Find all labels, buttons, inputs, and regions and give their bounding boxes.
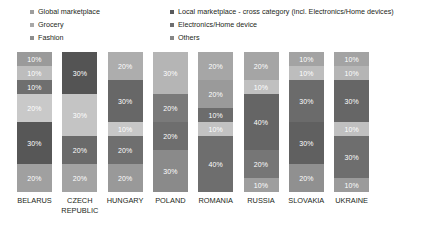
segment-value-label: 10% — [254, 182, 268, 189]
bar-segment[interactable]: 10% — [244, 178, 279, 192]
segment-value-label: 10% — [27, 56, 41, 63]
segment-value-label: 10% — [118, 126, 132, 133]
bar-segment[interactable]: 10% — [17, 52, 52, 66]
segment-value-label: 30% — [163, 70, 177, 77]
segment-value-label: 30% — [344, 154, 358, 161]
segment-value-label: 20% — [27, 105, 41, 112]
stacked-bar: 10%10%30%10%30%10% — [334, 52, 369, 192]
category-label-hungary: HUNGARY — [102, 196, 149, 206]
segment-value-label: 30% — [163, 168, 177, 175]
bar-belarus[interactable]: 10%10%10%20%30%20% — [17, 52, 52, 192]
stacked-bar: 10%10%10%20%30%20% — [17, 52, 52, 192]
segment-value-label: 30% — [118, 98, 132, 105]
bar-segment[interactable]: 30% — [108, 80, 143, 122]
segment-value-label: 20% — [209, 63, 223, 70]
bar-segment[interactable]: 10% — [289, 66, 324, 80]
bar-segment[interactable]: 20% — [17, 164, 52, 192]
segment-value-label: 30% — [299, 98, 313, 105]
bar-segment[interactable]: 30% — [62, 94, 97, 136]
category-label-czech-republic: CZECH REPUBLIC — [56, 196, 103, 215]
category-label-poland: POLAND — [147, 196, 194, 206]
legend-label: Local marketplace - cross category (incl… — [178, 6, 394, 17]
segment-value-label: 10% — [254, 84, 268, 91]
bar-segment[interactable]: 20% — [17, 94, 52, 122]
bar-segment[interactable]: 10% — [334, 52, 369, 66]
bar-segment[interactable]: 20% — [62, 164, 97, 192]
bar-slovakia[interactable]: 10%10%30%30%20% — [289, 52, 324, 192]
legend-column-right: Local marketplace - cross category (incl… — [170, 6, 394, 45]
segment-value-label: 30% — [299, 140, 313, 147]
segment-value-label: 30% — [73, 70, 87, 77]
segment-value-label: 10% — [209, 112, 223, 119]
bar-segment[interactable]: 30% — [17, 122, 52, 164]
segment-value-label: 20% — [73, 147, 87, 154]
bar-segment[interactable]: 30% — [62, 52, 97, 94]
bar-segment[interactable]: 30% — [289, 80, 324, 122]
category-label-romania: ROMANIA — [192, 196, 239, 206]
bar-segment[interactable]: 10% — [289, 52, 324, 66]
bar-segment[interactable]: 30% — [334, 136, 369, 178]
bar-segment[interactable]: 20% — [244, 150, 279, 178]
segment-value-label: 20% — [163, 105, 177, 112]
bar-segment[interactable]: 20% — [244, 52, 279, 80]
category-label-slovakia: SLOVAKIA — [283, 196, 330, 206]
bar-segment[interactable]: 10% — [334, 178, 369, 192]
bar-segment[interactable]: 20% — [153, 122, 188, 150]
bar-segment[interactable]: 10% — [108, 122, 143, 136]
bar-segment[interactable]: 20% — [198, 52, 233, 80]
bar-segment[interactable]: 10% — [334, 122, 369, 136]
bar-hungary[interactable]: 20%30%10%20%20% — [108, 52, 143, 192]
segment-value-label: 10% — [27, 70, 41, 77]
segment-value-label: 30% — [344, 98, 358, 105]
category-axis-labels: BELARUSCZECH REPUBLICHUNGARYPOLANDROMANI… — [0, 196, 429, 229]
legend-swatch-icon — [170, 23, 174, 27]
legend-label: Electronics/Home device — [178, 19, 257, 30]
bar-segment[interactable]: 30% — [153, 150, 188, 192]
bar-segment[interactable]: 20% — [108, 52, 143, 80]
bar-segment[interactable]: 20% — [289, 164, 324, 192]
bar-segment[interactable]: 10% — [17, 66, 52, 80]
segment-value-label: 20% — [118, 175, 132, 182]
bar-segment[interactable]: 20% — [198, 80, 233, 108]
bar-segment[interactable]: 10% — [17, 80, 52, 94]
bar-segment[interactable]: 10% — [244, 80, 279, 94]
bar-segment[interactable]: 10% — [334, 66, 369, 80]
chart-legend: Global marketplace Grocery Fashion Local… — [0, 6, 429, 44]
legend-column-left: Global marketplace Grocery Fashion — [30, 6, 100, 45]
stacked-bar: 10%10%30%30%20% — [289, 52, 324, 192]
bar-segment[interactable]: 20% — [153, 94, 188, 122]
stacked-bar: 20%30%10%20%20% — [108, 52, 143, 192]
bar-czech-republic[interactable]: 30%30%20%20% — [62, 52, 97, 192]
bar-segment[interactable]: 10% — [198, 108, 233, 122]
bar-segment[interactable]: 30% — [289, 122, 324, 164]
bar-segment[interactable]: 40% — [198, 136, 233, 192]
bar-segment[interactable]: 30% — [153, 52, 188, 94]
legend-item-local-marketplace: Local marketplace - cross category (incl… — [170, 6, 394, 18]
legend-item-grocery: Grocery — [30, 19, 100, 31]
bar-poland[interactable]: 30%20%20%30% — [153, 52, 188, 192]
segment-value-label: 20% — [27, 175, 41, 182]
bar-romania[interactable]: 20%20%10%10%40% — [198, 52, 233, 192]
bar-ukraine[interactable]: 10%10%30%10%30%10% — [334, 52, 369, 192]
segment-value-label: 30% — [73, 112, 87, 119]
segment-value-label: 10% — [209, 126, 223, 133]
bar-segment[interactable]: 10% — [198, 122, 233, 136]
bar-segment[interactable]: 30% — [334, 80, 369, 122]
segment-value-label: 10% — [299, 56, 313, 63]
legend-item-fashion: Fashion — [30, 32, 100, 44]
stacked-bar: 30%30%20%20% — [62, 52, 97, 192]
bar-segment[interactable]: 20% — [108, 136, 143, 164]
bar-russia[interactable]: 20%10%40%20%10% — [244, 52, 279, 192]
stacked-bar: 20%20%10%10%40% — [198, 52, 233, 192]
category-label-belarus: BELARUS — [11, 196, 58, 206]
segment-value-label: 20% — [118, 147, 132, 154]
segment-value-label: 40% — [254, 119, 268, 126]
stacked-bar-plot-area: 10%10%10%20%30%20%30%30%20%20%20%30%10%2… — [0, 52, 429, 192]
bar-segment[interactable]: 40% — [244, 94, 279, 150]
segment-value-label: 30% — [27, 140, 41, 147]
stacked-bar: 30%20%20%30% — [153, 52, 188, 192]
legend-item-electronics-home-device: Electronics/Home device — [170, 19, 394, 31]
bar-segment[interactable]: 20% — [108, 164, 143, 192]
segment-value-label: 20% — [299, 175, 313, 182]
bar-segment[interactable]: 20% — [62, 136, 97, 164]
